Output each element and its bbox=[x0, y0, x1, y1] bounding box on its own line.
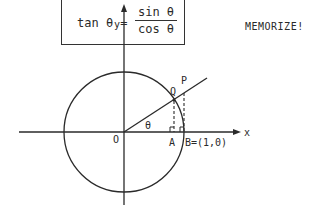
x-axis-arrow-icon bbox=[233, 129, 241, 135]
unit-circle-diagram: y x O θ A B=(1,0) Q P bbox=[0, 0, 317, 209]
point-b-label: B=(1,0) bbox=[185, 137, 227, 148]
y-axis-arrow-icon bbox=[121, 4, 127, 12]
angle-ray bbox=[124, 78, 207, 132]
point-q-label: Q bbox=[170, 86, 176, 97]
point-q-dot bbox=[173, 99, 176, 102]
origin-label: O bbox=[113, 134, 119, 145]
point-a-label: A bbox=[169, 137, 175, 148]
y-axis-label: y bbox=[114, 19, 120, 30]
x-axis-label: x bbox=[244, 127, 250, 138]
right-angle-a-icon bbox=[170, 127, 174, 132]
theta-label: θ bbox=[145, 120, 151, 131]
point-p-label: P bbox=[181, 75, 187, 86]
